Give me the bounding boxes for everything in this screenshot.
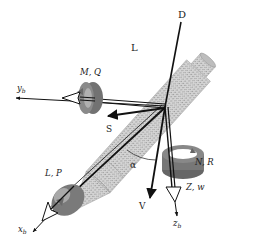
roll-moment-label: L, P xyxy=(44,168,62,178)
pitch-moment-label: M, Q xyxy=(79,67,101,77)
y-axis-label: yb xyxy=(16,83,26,94)
z-axis-label: zb xyxy=(172,218,181,229)
velocity-label: V xyxy=(138,201,146,211)
pitch-axis-open-arrowhead xyxy=(62,92,80,104)
diagram-canvas: D L S V α M, Q L, P N, R Z, w yb xb zb xyxy=(0,0,256,249)
normal-force-label: Z, w xyxy=(185,182,205,192)
missile-axes-diagram: D L S V α M, Q L, P N, R Z, w yb xb zb xyxy=(0,0,256,249)
drag-label: D xyxy=(178,9,186,20)
yaw-moment-label: N, R xyxy=(194,157,214,167)
side-force-label: S xyxy=(106,124,112,134)
x-axis-label: xb xyxy=(18,224,27,235)
lift-label: L xyxy=(131,42,138,53)
alpha-label: α xyxy=(130,160,136,170)
